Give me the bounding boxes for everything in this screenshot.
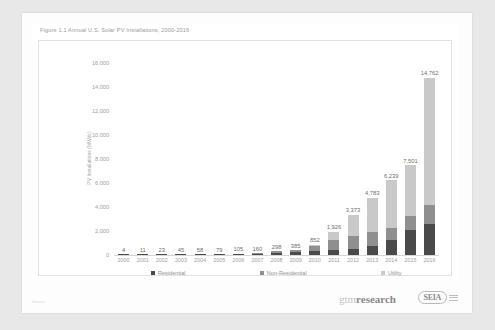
bar-value-label: 79 <box>216 247 222 253</box>
bar-segment-residential[interactable] <box>367 246 378 255</box>
bar-group-2010[interactable]: 852 <box>305 63 324 255</box>
bar-segment-non-residential[interactable] <box>367 232 378 245</box>
y-axis-tick: 2,000 <box>95 228 109 234</box>
bar-value-label: 1,926 <box>327 224 342 230</box>
footer-note: Source <box>32 299 45 304</box>
bar-group-2002[interactable]: 23 <box>152 63 171 255</box>
x-axis-tick-2007: 2007 <box>248 257 267 263</box>
bar-segment-utility[interactable] <box>348 215 359 237</box>
bar-group-2007[interactable]: 160 <box>248 63 267 255</box>
y-axis-tick: 6,000 <box>95 180 109 186</box>
slide-canvas: Figure 1.1 Annual U.S. Solar PV Installa… <box>22 13 472 313</box>
bar-stack[interactable]: 6,239 <box>386 180 397 255</box>
x-axis-tick-2001: 2001 <box>133 257 152 263</box>
legend-swatch-icon <box>381 271 385 275</box>
legend-item-residential[interactable]: Residential <box>151 270 185 276</box>
bar-value-label: 23 <box>159 247 165 253</box>
bar-value-label: 385 <box>291 243 301 249</box>
x-axis-tick-2012: 2012 <box>344 257 363 263</box>
bar-stack[interactable]: 7,501 <box>405 165 416 255</box>
chart-legend: ResidentialNon-ResidentialUtility <box>114 270 439 276</box>
x-axis-tick-2005: 2005 <box>210 257 229 263</box>
bar-value-label: 58 <box>197 247 203 253</box>
chart-container: Figure 1.1 Annual U.S. Solar PV Installa… <box>32 23 458 281</box>
legend-item-utility[interactable]: Utility <box>381 270 401 276</box>
y-axis-tick: 4,000 <box>95 204 109 210</box>
slide-footer: Source gtmresearch SEIA <box>22 285 472 309</box>
bar-value-label: 7,501 <box>403 158 418 164</box>
bar-stack[interactable]: 3,373 <box>348 215 359 255</box>
x-axis-tick-2010: 2010 <box>305 257 324 263</box>
y-axis-tick: 10,000 <box>92 132 109 138</box>
bar-group-2012[interactable]: 3,373 <box>344 63 363 255</box>
bar-value-label: 852 <box>310 237 320 243</box>
gtm-research-logo: gtmresearch <box>339 293 396 305</box>
bar-stack[interactable]: 1,926 <box>328 232 339 255</box>
bar-series-group: 411234558791051602983858521,9263,3734,78… <box>114 63 439 255</box>
bar-segment-non-residential[interactable] <box>424 205 435 224</box>
x-axis-tick-2004: 2004 <box>191 257 210 263</box>
bar-group-2011[interactable]: 1,926 <box>324 63 343 255</box>
gtm-logo-suffix: research <box>356 293 396 305</box>
x-axis-line <box>114 255 439 256</box>
bar-segment-residential[interactable] <box>386 240 397 255</box>
bar-group-2009[interactable]: 385 <box>286 63 305 255</box>
x-axis-tick-2014: 2014 <box>382 257 401 263</box>
bar-segment-utility[interactable] <box>386 180 397 227</box>
x-axis-tick-2015: 2015 <box>401 257 420 263</box>
bar-value-label: 11 <box>140 247 146 253</box>
chart-title: Figure 1.1 Annual U.S. Solar PV Installa… <box>40 27 189 33</box>
bar-value-label: 14,762 <box>421 70 439 76</box>
legend-item-non-residential[interactable]: Non-Residential <box>260 270 306 276</box>
seia-logo: SEIA <box>418 291 458 304</box>
seia-logo-lines-icon <box>449 295 458 301</box>
bar-group-2003[interactable]: 45 <box>171 63 190 255</box>
bar-stack[interactable]: 852 <box>309 245 320 255</box>
bar-segment-residential[interactable] <box>424 224 435 255</box>
bar-group-2016[interactable]: 14,762 <box>420 63 439 255</box>
bar-group-2013[interactable]: 4,783 <box>363 63 382 255</box>
legend-label: Utility <box>388 270 402 276</box>
x-axis-tick-2008: 2008 <box>267 257 286 263</box>
bar-value-label: 3,373 <box>346 207 361 213</box>
bar-value-label: 45 <box>178 247 184 253</box>
x-axis-tick-2003: 2003 <box>171 257 190 263</box>
x-axis-tick-labels: 2000200120022003200420052006200720082009… <box>114 257 439 263</box>
bar-group-2001[interactable]: 11 <box>133 63 152 255</box>
bar-group-2014[interactable]: 6,239 <box>382 63 401 255</box>
bar-value-label: 4 <box>122 247 125 253</box>
bar-segment-non-residential[interactable] <box>328 240 339 250</box>
x-axis-tick-2016: 2016 <box>420 257 439 263</box>
y-axis-tick-labels: 16,00014,00012,00010,0008,0006,0004,0002… <box>69 63 109 255</box>
bar-group-2008[interactable]: 298 <box>267 63 286 255</box>
x-axis-tick-2009: 2009 <box>286 257 305 263</box>
plot-frame: PV Installations (MWdc) 16,00014,00012,0… <box>38 40 452 276</box>
plot-area: 411234558791051602983858521,9263,3734,78… <box>114 63 439 255</box>
bar-group-2006[interactable]: 105 <box>229 63 248 255</box>
bar-value-label: 298 <box>272 244 282 250</box>
y-axis-tick: 8,000 <box>95 156 109 162</box>
bar-segment-residential[interactable] <box>405 230 416 255</box>
bar-stack[interactable]: 4,783 <box>367 198 378 255</box>
seia-logo-text: SEIA <box>418 291 447 304</box>
bar-segment-non-residential[interactable] <box>348 236 359 248</box>
bar-segment-utility[interactable] <box>424 78 435 205</box>
bar-segment-utility[interactable] <box>367 198 378 233</box>
legend-label: Residential <box>158 270 186 276</box>
bar-group-2004[interactable]: 58 <box>191 63 210 255</box>
bar-group-2000[interactable]: 4 <box>114 63 133 255</box>
x-axis-tick-2011: 2011 <box>324 257 343 263</box>
bar-segment-utility[interactable] <box>328 232 339 240</box>
x-axis-tick-2000: 2000 <box>114 257 133 263</box>
bar-group-2015[interactable]: 7,501 <box>401 63 420 255</box>
legend-swatch-icon <box>151 271 155 275</box>
bar-segment-non-residential[interactable] <box>386 228 397 241</box>
bar-segment-utility[interactable] <box>405 165 416 216</box>
legend-swatch-icon <box>260 271 264 275</box>
legend-label: Non-Residential <box>267 270 307 276</box>
bar-group-2005[interactable]: 79 <box>210 63 229 255</box>
bar-stack[interactable]: 14,762 <box>424 78 435 255</box>
y-axis-tick: 14,000 <box>92 84 109 90</box>
bar-segment-non-residential[interactable] <box>405 216 416 230</box>
bar-value-label: 6,239 <box>384 173 399 179</box>
